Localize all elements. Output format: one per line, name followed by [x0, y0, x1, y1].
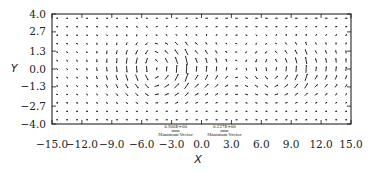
- vector-head: [97, 103, 98, 104]
- reference-vectors: 0.500E+00Maximum Vector0.227E+00Maximum …: [158, 124, 241, 137]
- vector-head: [147, 79, 148, 80]
- vector-head: [336, 119, 337, 120]
- vector-head: [336, 102, 337, 103]
- vector-head: [117, 18, 118, 19]
- vector-head: [296, 34, 297, 35]
- vector-head: [236, 68, 237, 69]
- x-tick-label: −6.0: [129, 138, 155, 150]
- vector-head: [87, 111, 88, 112]
- vector-head: [316, 18, 317, 19]
- vector-head: [177, 18, 178, 19]
- vector-head: [346, 102, 347, 103]
- vector-head: [117, 87, 118, 88]
- vector-head: [97, 78, 98, 79]
- vector-head: [206, 34, 207, 35]
- vector-head: [265, 44, 266, 45]
- vector-head: [205, 42, 206, 43]
- vector-head: [345, 51, 346, 52]
- vector-head: [286, 119, 287, 120]
- vector-head: [226, 111, 227, 112]
- vector-head: [336, 93, 337, 94]
- vector-head: [97, 35, 98, 36]
- vector-head: [196, 111, 197, 112]
- vector-arrow: [295, 50, 297, 53]
- vector-head: [286, 34, 287, 35]
- vector-head: [137, 119, 138, 120]
- vector-head: [87, 86, 88, 87]
- vector-head: [187, 73, 188, 74]
- vector-head: [226, 102, 227, 103]
- vector-head: [316, 26, 317, 27]
- vector-head: [295, 42, 296, 43]
- vector-head: [77, 94, 78, 95]
- vector-head: [127, 95, 128, 96]
- vector-arrow: [216, 76, 218, 79]
- vector-head: [226, 119, 227, 120]
- vector-head: [296, 66, 297, 67]
- vector-head: [316, 102, 317, 103]
- vector-head: [87, 119, 88, 120]
- vector-head: [198, 84, 199, 85]
- vector-arrow: [195, 85, 198, 88]
- vector-head: [196, 119, 197, 120]
- x-axis-ticks: −15.0−12.0−9.0−6.0−3.00.03.06.09.012.015…: [36, 14, 363, 150]
- vector-head: [126, 71, 127, 72]
- vector-head: [87, 94, 88, 95]
- vector-head: [77, 77, 78, 78]
- vector-head: [77, 119, 78, 120]
- vector-head: [167, 75, 168, 76]
- vector-head: [188, 83, 189, 84]
- vector-head: [137, 26, 138, 27]
- vector-head: [346, 18, 347, 19]
- x-tick-label: 9.0: [283, 138, 300, 150]
- vector-head: [275, 59, 276, 60]
- vector-head: [197, 75, 198, 76]
- vector-head: [147, 95, 148, 96]
- vector-head: [325, 58, 326, 59]
- vector-head: [207, 102, 208, 103]
- vector-head: [137, 103, 138, 104]
- vector-head: [135, 53, 136, 54]
- vector-arrow: [126, 84, 128, 87]
- vector-head: [87, 102, 88, 103]
- vector-head: [145, 44, 146, 45]
- vector-head: [236, 35, 237, 36]
- vector-head: [107, 111, 108, 112]
- vector-head: [106, 70, 107, 71]
- vector-head: [215, 50, 216, 51]
- vector-head: [116, 71, 117, 72]
- vector-head: [86, 61, 87, 62]
- vector-head: [346, 84, 347, 85]
- vector-head: [226, 43, 227, 44]
- vector-head: [267, 86, 268, 87]
- vector-head: [257, 18, 258, 19]
- x-tick-label: 15.0: [339, 138, 362, 150]
- vector-arrow: [175, 93, 178, 95]
- vector-head: [67, 102, 68, 103]
- reference-vector-label: Maximum Vector: [207, 132, 242, 137]
- vector-head: [235, 60, 236, 61]
- vector-arrow: [166, 59, 168, 63]
- vector-head: [326, 119, 327, 120]
- vector-head: [245, 52, 246, 53]
- vector-head: [246, 119, 247, 120]
- vector-arrow: [136, 75, 138, 80]
- vector-head: [147, 26, 148, 27]
- vector-head: [165, 58, 166, 59]
- vector-head: [306, 65, 307, 66]
- vector-head: [316, 119, 317, 120]
- vector-head: [246, 102, 247, 103]
- vector-head: [57, 119, 58, 120]
- vector-head: [296, 102, 297, 103]
- vector-head: [186, 18, 187, 19]
- vector-head: [346, 93, 347, 94]
- vector-head: [77, 43, 78, 44]
- vector-head: [67, 52, 68, 53]
- vector-head: [77, 69, 78, 70]
- vector-arrow: [295, 84, 298, 87]
- vector-arrow: [165, 51, 168, 53]
- vector-arrow: [146, 75, 148, 80]
- vector-head: [267, 18, 268, 19]
- vector-head: [97, 119, 98, 120]
- vector-head: [216, 26, 217, 27]
